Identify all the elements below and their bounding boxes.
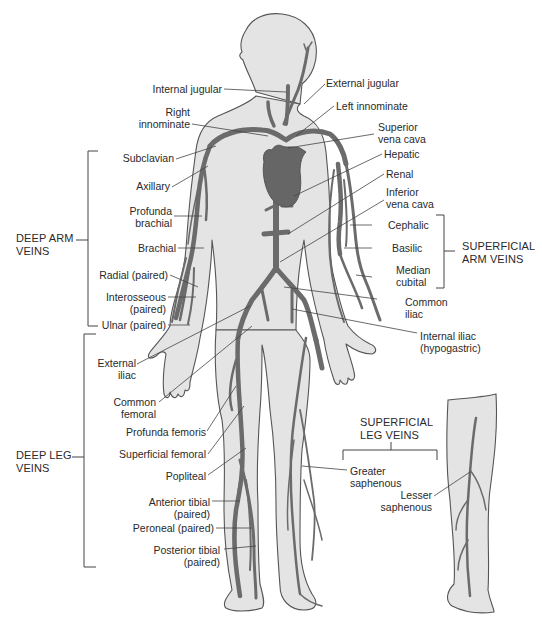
label-basilic: Basilic (392, 242, 422, 254)
group-label-deep-arm-veins: DEEP ARM VEINS (16, 232, 73, 258)
label-greater-saphenous: Greater saphenous (350, 465, 401, 489)
label-superior-vena-cava: Superior vena cava (378, 121, 426, 145)
label-median-cubital: Median cubital (396, 264, 430, 288)
label-common-femoral: Common femoral (100, 396, 156, 420)
body-illustration (0, 0, 542, 622)
label-cephalic: Cephalic (388, 219, 429, 231)
group-label-superficial-arm-veins: SUPERFICIAL ARM VEINS (462, 240, 535, 266)
group-label-deep-leg-veins: DEEP LEG VEINS (16, 449, 72, 475)
label-anterior-tibial-paired: Anterior tibial (paired) (120, 496, 210, 520)
label-peroneal-paired: Peroneal (paired) (110, 522, 214, 534)
label-radial-paired: Radial (paired) (90, 269, 168, 281)
label-lesser-saphenous: Lesser saphenous (370, 489, 432, 513)
label-inferior-vena-cava: Inferior vena cava (386, 186, 434, 210)
label-internal-iliac-hypogastric: Internal iliac (hypogastric) (420, 330, 481, 354)
label-profunda-femoris: Profunda femoris (110, 426, 206, 438)
label-interosseous-paired: Interosseous (paired) (96, 291, 166, 315)
label-ulnar-paired: Ulnar (paired) (96, 319, 166, 331)
label-posterior-tibial-paired: Posterior tibial (paired) (130, 544, 220, 568)
label-right-innominate: Right innominate (128, 106, 190, 130)
label-common-iliac: Common iliac (405, 296, 448, 320)
label-superficial-femoral: Superficial femoral (100, 448, 206, 460)
label-brachial: Brachial (120, 242, 176, 254)
vein-diagram: DEEP ARM VEINS SUPERFICIAL ARM VEINS DEE… (0, 0, 542, 622)
label-internal-jugular: Internal jugular (138, 83, 222, 95)
label-axillary: Axillary (120, 180, 170, 192)
label-subclavian: Subclavian (112, 152, 174, 164)
label-popliteal: Popliteal (130, 470, 206, 482)
side-leg-silhouette (447, 394, 497, 613)
label-left-innominate: Left innominate (336, 100, 408, 112)
label-external-iliac: External iliac (86, 357, 136, 381)
label-profunda-brachial: Profunda brachial (120, 205, 172, 229)
label-renal: Renal (386, 168, 413, 180)
label-external-jugular: External jugular (326, 77, 399, 89)
group-label-superficial-leg-veins: SUPERFICIAL LEG VEINS (360, 416, 433, 442)
label-hepatic: Hepatic (384, 148, 420, 160)
